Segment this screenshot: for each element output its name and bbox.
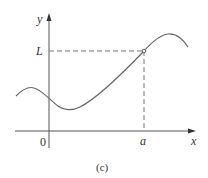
limit-value-label: L <box>36 45 43 57</box>
x-axis-label: x <box>191 135 196 147</box>
diagram-canvas <box>0 0 208 178</box>
limit-diagram: y L 0 a x (c) <box>0 0 208 178</box>
open-point-icon <box>142 49 146 53</box>
origin-label: 0 <box>40 136 46 148</box>
x-axis-arrow-icon <box>188 129 196 134</box>
figure-caption: (c) <box>96 162 108 173</box>
approach-point-label: a <box>140 135 146 147</box>
y-axis-arrow-icon <box>47 13 52 21</box>
y-axis-label: y <box>37 13 42 25</box>
